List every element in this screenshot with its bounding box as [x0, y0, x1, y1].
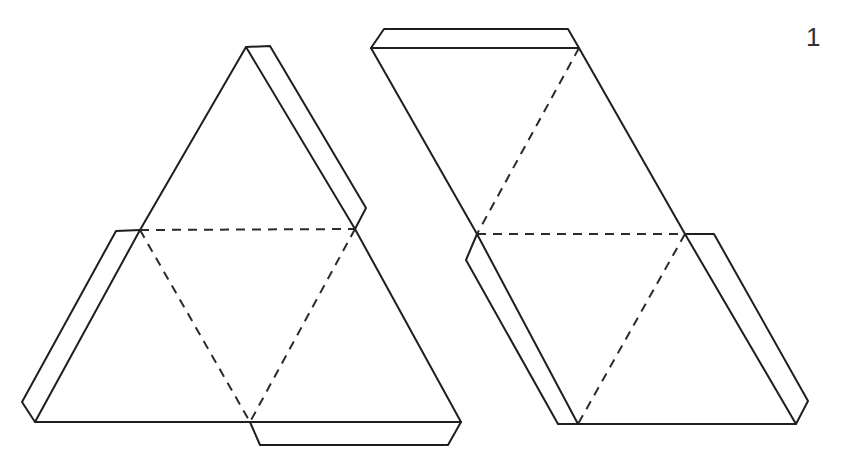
tetrahedron-nets-diagram — [0, 0, 841, 467]
triangular-net — [22, 46, 461, 445]
parallelogram-net-outline — [371, 48, 796, 424]
tab-left — [22, 230, 140, 422]
fold-line-lower-diagonal — [578, 234, 685, 424]
tab-lower-right — [685, 234, 808, 424]
fold-line-right-diagonal — [250, 229, 355, 422]
parallelogram-net — [371, 29, 808, 424]
tab-top-right — [246, 46, 366, 229]
tab-top — [371, 29, 579, 48]
fold-line-upper-diagonal — [477, 48, 579, 234]
figure-number-label: 1 — [806, 22, 820, 53]
tab-lower-left — [466, 234, 578, 424]
fold-line-left-diagonal — [140, 230, 250, 422]
tab-bottom — [250, 422, 461, 445]
fold-line-horizontal — [140, 229, 355, 230]
triangular-net-outline — [35, 47, 461, 422]
